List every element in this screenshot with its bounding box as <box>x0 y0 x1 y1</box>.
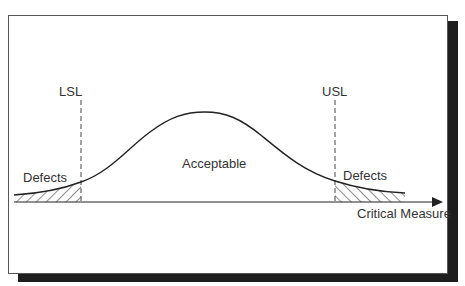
defects-right-label: Defects <box>343 168 388 183</box>
x-axis-label: Critical Measure <box>357 206 451 221</box>
acceptable-label: Acceptable <box>182 156 246 171</box>
usl-label: USL <box>322 84 347 99</box>
lsl-label: LSL <box>59 84 82 99</box>
capability-diagram: LSL USL Acceptable Defects Defects Criti… <box>0 0 465 286</box>
defects-left-label: Defects <box>23 170 68 185</box>
